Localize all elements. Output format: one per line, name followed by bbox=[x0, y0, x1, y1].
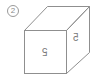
front-face-digit: 5 bbox=[42, 46, 48, 56]
cube-top-face bbox=[25, 7, 90, 31]
right-face-digit: 5 bbox=[73, 33, 79, 43]
cube-drawing bbox=[0, 0, 96, 78]
